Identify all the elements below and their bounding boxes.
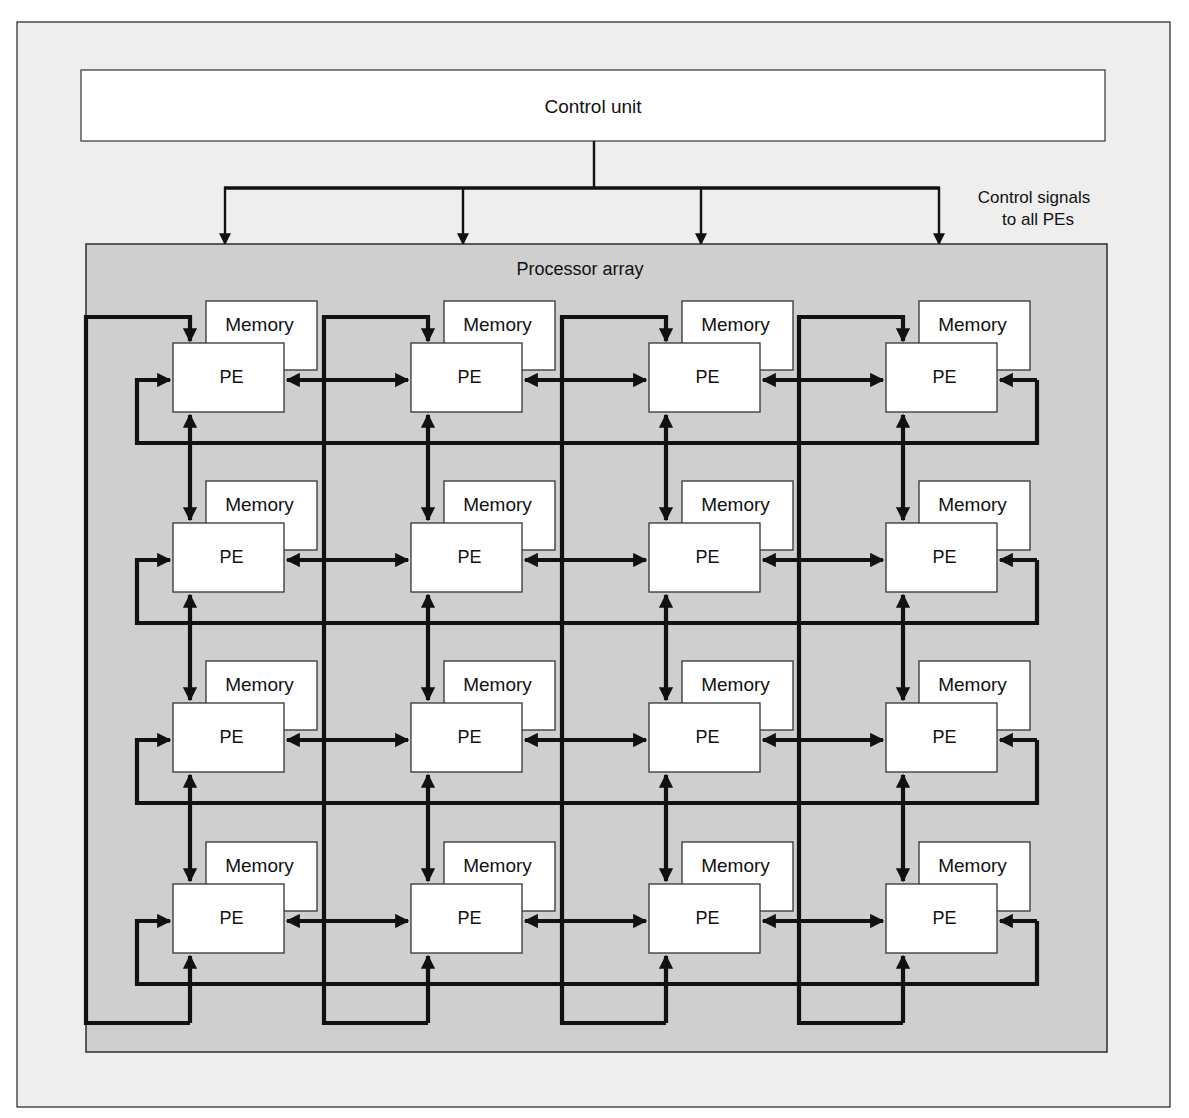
- memory-label: Memory: [938, 674, 1007, 695]
- pe-label: PE: [219, 547, 243, 567]
- control-signals-label-line1: Control signals: [978, 188, 1090, 207]
- memory-label: Memory: [463, 314, 532, 335]
- control-signals-label-line2: to all PEs: [1002, 210, 1074, 229]
- simd-processor-array-diagram: Control unit Control signals to all PEs …: [0, 0, 1189, 1118]
- pe-label: PE: [932, 727, 956, 747]
- memory-label: Memory: [701, 494, 770, 515]
- memory-label: Memory: [225, 314, 294, 335]
- memory-label: Memory: [938, 314, 1007, 335]
- memory-label: Memory: [225, 855, 294, 876]
- memory-label: Memory: [463, 674, 532, 695]
- pe-label: PE: [695, 908, 719, 928]
- processor-array-label: Processor array: [516, 259, 643, 279]
- memory-label: Memory: [938, 855, 1007, 876]
- memory-label: Memory: [938, 494, 1007, 515]
- memory-label: Memory: [225, 494, 294, 515]
- control-unit: Control unit: [81, 70, 1105, 141]
- memory-label: Memory: [701, 855, 770, 876]
- pe-label: PE: [457, 727, 481, 747]
- memory-label: Memory: [701, 314, 770, 335]
- pe-label: PE: [457, 547, 481, 567]
- memory-label: Memory: [463, 855, 532, 876]
- pe-label: PE: [457, 367, 481, 387]
- pe-label: PE: [932, 367, 956, 387]
- control-unit-label: Control unit: [544, 96, 642, 117]
- pe-label: PE: [932, 908, 956, 928]
- pe-label: PE: [219, 727, 243, 747]
- pe-label: PE: [695, 547, 719, 567]
- pe-label: PE: [932, 547, 956, 567]
- pe-label: PE: [695, 367, 719, 387]
- memory-label: Memory: [225, 674, 294, 695]
- memory-label: Memory: [701, 674, 770, 695]
- pe-label: PE: [219, 908, 243, 928]
- pe-label: PE: [695, 727, 719, 747]
- pe-label: PE: [457, 908, 481, 928]
- memory-label: Memory: [463, 494, 532, 515]
- pe-label: PE: [219, 367, 243, 387]
